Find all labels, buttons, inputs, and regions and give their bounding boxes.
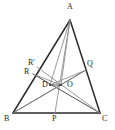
point-label-R-prime: R' — [28, 59, 35, 67]
cevian-A-to-D — [50, 20, 70, 85]
cevian-A-to-O — [61, 20, 70, 85]
point-label-R: R — [24, 68, 29, 76]
point-label-D: D — [42, 81, 48, 89]
cevian-C-to-Rp — [37, 67, 100, 113]
point-label-B: B — [4, 115, 9, 123]
point-marker-D — [49, 84, 51, 86]
point-label-Q: Q — [87, 60, 93, 68]
point-label-P: P — [52, 115, 56, 123]
geometry-canvas — [0, 0, 115, 130]
point-marker-O — [60, 84, 62, 86]
geometry-figure: A R' R Q D O B P C — [0, 0, 115, 130]
side-AC — [70, 20, 100, 113]
point-label-C: C — [102, 115, 107, 123]
point-label-A: A — [67, 3, 73, 11]
point-label-O: O — [67, 81, 73, 89]
segment-B-to-O — [13, 85, 61, 113]
side-AB — [13, 20, 70, 113]
